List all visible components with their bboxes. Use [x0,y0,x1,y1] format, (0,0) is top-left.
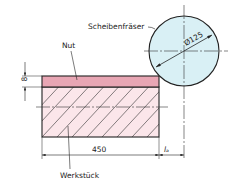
cutter-leader [148,27,155,29]
groove-band [42,76,159,87]
workpiece-label: Werkstück [60,171,100,180]
length-dimension [42,137,184,159]
length-label: 450 [92,145,107,154]
groove-label: Nut [62,41,75,50]
approach-label: lₐ [164,145,169,154]
workpiece [0,80,200,150]
depth-label: 8 [20,77,29,82]
cutter-label: Scheibenfräser [88,22,145,31]
milling-diagram: Ø125 Scheibenfräser Nut 8 450 lₐ Werkstü… [0,0,239,189]
